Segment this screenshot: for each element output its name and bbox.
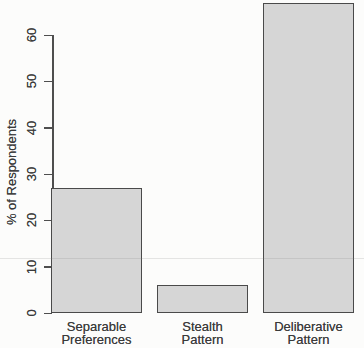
bar: [51, 188, 142, 313]
y-tick-mark: [44, 174, 52, 176]
y-tick-mark: [44, 81, 52, 83]
y-tick-label: 20: [24, 213, 39, 227]
y-tick-mark: [44, 127, 52, 129]
y-tick-label: 50: [24, 74, 39, 88]
scan-artifact-line: [0, 258, 364, 259]
category-label: Stealth Pattern: [151, 320, 255, 346]
y-tick-label: 10: [24, 259, 39, 273]
category-label: Deliberative Pattern: [257, 320, 361, 346]
y-tick-label: 60: [24, 28, 39, 42]
category-label: Separable Preferences: [45, 320, 149, 346]
bar-chart-figure: % of Respondents 0102030405060 Separable…: [0, 0, 364, 348]
y-axis-title: % of Respondents: [4, 119, 19, 225]
y-tick-mark: [44, 35, 52, 37]
y-tick-label: 0: [24, 309, 39, 316]
bar: [263, 3, 354, 313]
y-tick-label: 30: [24, 167, 39, 181]
bar: [157, 285, 248, 313]
y-tick-label: 40: [24, 120, 39, 134]
